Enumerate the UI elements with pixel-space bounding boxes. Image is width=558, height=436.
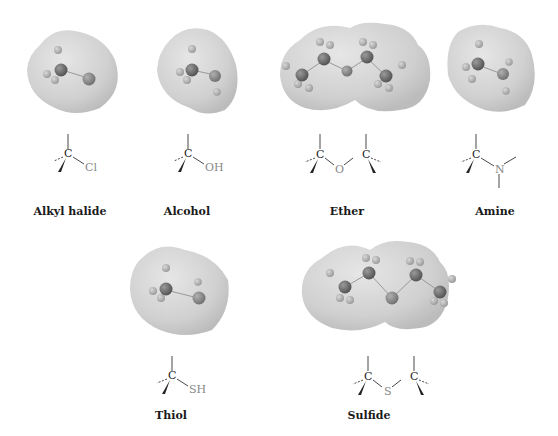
label-thiol: Thiol — [155, 409, 187, 422]
label-alcohol: Alcohol — [164, 205, 210, 218]
sulfide-heteroatom: S — [384, 385, 392, 398]
ether-carbon-left: C — [316, 148, 324, 161]
sulfide-carbon-right: C — [410, 370, 418, 383]
functional-groups-figure: C Cl C OH C O C C N C SH C S C Alkyl hal… — [0, 0, 558, 436]
label-ether: Ether — [330, 205, 364, 218]
alcohol-model — [157, 28, 238, 113]
alcohol-carbon: C — [184, 147, 192, 160]
sulfide-model — [302, 241, 456, 330]
label-amine: Amine — [475, 205, 514, 218]
alcohol-heteroatom: OH — [205, 161, 224, 174]
thiol-heteroatom: SH — [189, 383, 206, 396]
ether-carbon-right: C — [362, 148, 370, 161]
thiol-carbon: C — [168, 369, 176, 382]
amine-heteroatom: N — [495, 163, 505, 176]
amine-structure — [461, 134, 516, 188]
thiol-model — [130, 246, 229, 335]
label-sulfide: Sulfide — [348, 409, 391, 422]
alkyl-halide-carbon: C — [64, 147, 72, 160]
figure-graphics — [0, 0, 558, 436]
sulfide-carbon-left: C — [364, 370, 372, 383]
ether-heteroatom: O — [335, 163, 344, 176]
ether-model — [280, 23, 430, 112]
amine-model — [447, 25, 534, 112]
label-alkyl-halide: Alkyl halide — [34, 205, 107, 218]
amine-carbon: C — [472, 148, 480, 161]
alkyl-halide-model — [27, 30, 118, 113]
alkyl-halide-heteroatom: Cl — [85, 161, 97, 174]
